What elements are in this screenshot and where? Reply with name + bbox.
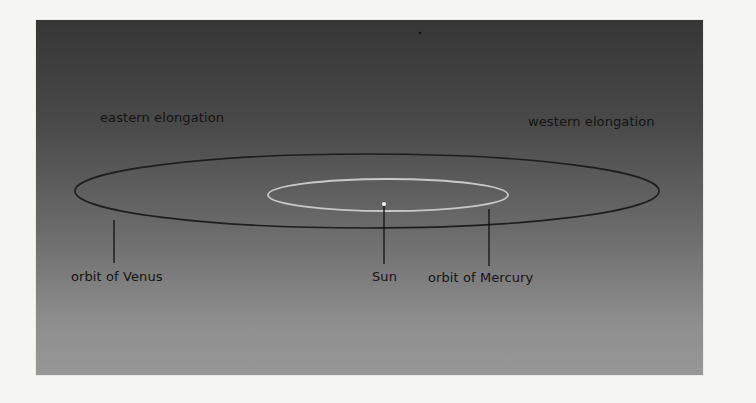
venus-orbit: [75, 154, 659, 228]
page: eastern elongation western elongation or…: [0, 0, 756, 403]
dust-speck: [419, 32, 421, 34]
sun-dot: [382, 202, 386, 206]
western-elongation-label: western elongation: [528, 115, 655, 128]
sun-label: Sun: [372, 270, 397, 283]
orbit-mercury-label: orbit of Mercury: [428, 271, 533, 284]
orbit-venus-label: orbit of Venus: [71, 270, 163, 283]
orbit-diagram: [0, 0, 756, 403]
eastern-elongation-label: eastern elongation: [100, 111, 224, 124]
mercury-orbit: [268, 179, 508, 211]
